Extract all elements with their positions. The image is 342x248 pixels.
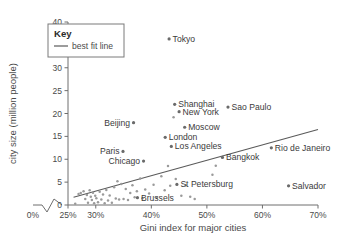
data-point-labeled [164,136,167,139]
data-point [133,196,136,199]
data-point [88,189,91,192]
data-point [118,198,121,201]
data-point-label: New York [183,107,220,117]
x-tick-label: 50% [198,210,215,220]
data-point [82,190,85,193]
data-point-label: Brussels [141,193,174,203]
data-point-labeled [132,121,135,124]
data-point-label: Tokyo [173,34,196,44]
data-point [80,192,83,195]
data-point [167,165,170,168]
data-point-labeled [168,37,171,40]
data-point-labeled [136,196,139,199]
data-point [84,198,87,201]
data-point [131,184,134,187]
data-point-label: Los Angeles [175,141,222,151]
data-point [169,185,172,188]
data-point-label: Salvador [292,181,326,191]
data-point-labeled [226,105,229,108]
chart-canvas: 0%25%30%40%50%60%70%0510152025303540Gini… [0,0,342,248]
data-point-labeled [142,159,145,162]
data-point [211,174,214,177]
data-point [111,201,114,204]
data-point [180,195,183,198]
x-tick-label: 25% [59,210,76,220]
data-point [175,178,178,181]
data-point [172,116,175,119]
data-point [215,164,218,167]
x-tick-label: 70% [309,210,326,220]
y-tick-label: 15 [53,131,63,141]
data-point [103,202,106,205]
data-point [77,193,80,196]
x-tick-label: 0% [27,210,40,220]
y-tick-label: 20 [53,109,63,119]
data-point [95,197,98,200]
data-point [125,188,128,191]
x-tick-label: 60% [254,210,271,220]
data-point [97,201,100,204]
scatter-chart: 0%25%30%40%50%60%70%0510152025303540Gini… [0,0,342,248]
y-tick-label: 10 [53,154,63,164]
data-point [90,196,93,199]
data-point-labeled [287,184,290,187]
y-tick-label: 0 [57,200,62,210]
data-point [152,184,155,187]
data-point [105,189,108,192]
data-point [102,193,105,196]
data-point [120,183,123,186]
data-point [163,189,166,192]
x-axis-title: Gini index for major cities [140,222,247,233]
data-point [91,199,94,202]
data-point [100,198,103,201]
data-point [113,186,116,189]
data-point-label: Moscow [188,122,220,132]
data-point [136,190,139,193]
data-point-labeled [121,150,124,153]
data-point [127,199,130,202]
data-point [108,194,111,197]
data-point [193,198,196,201]
data-point [115,197,118,200]
y-tick-label: 5 [57,177,62,187]
y-tick-label: 25 [53,86,63,96]
data-point [74,202,77,205]
data-point [116,180,119,183]
data-point [98,190,101,193]
data-point [144,188,147,191]
data-point-label: Chicago [109,156,141,166]
data-point [107,199,110,202]
x-tick-label: 40% [143,210,160,220]
legend-entry-label: best fit line [72,41,113,51]
y-tick-label: 30 [53,63,63,73]
data-point-labeled [183,126,186,129]
data-point [86,194,89,197]
data-point-label: Sao Paulo [232,102,272,112]
data-point-labeled [173,103,176,106]
data-point [129,192,132,195]
data-point [122,198,125,201]
data-point-labeled [175,183,178,186]
y-axis-title: city size (million people) [7,63,18,164]
data-point [139,177,142,180]
data-point-labeled [178,110,181,113]
data-point-labeled [221,156,224,159]
data-point-label: Beijing [104,118,130,128]
data-point-label: St Petersburg [180,179,233,189]
x-tick-label: 30% [87,210,104,220]
data-point [87,201,90,204]
data-point [189,196,192,199]
data-point-labeled [170,145,173,148]
data-point [94,195,97,198]
data-point [160,175,163,178]
data-point [93,202,96,205]
legend-title: Key [54,28,72,39]
data-point-labeled [270,146,273,149]
data-point-label: Paris [100,146,120,156]
data-point-label: Bangkok [226,152,260,162]
data-point-label: Rio de Janeiro [275,143,331,153]
data-point [92,191,95,194]
